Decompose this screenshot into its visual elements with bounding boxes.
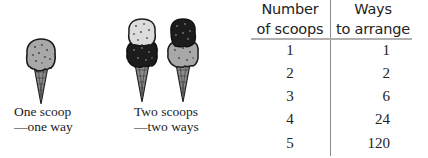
two-scoop-cone-dark-top-icon [166,18,200,104]
header-ways-line1: Ways [331,0,415,19]
two-scoops-caption: Two scoops —two ways [134,104,199,134]
header-number-of-scoops: Number of scoops [250,0,330,39]
one-scoop-caption-line2: —one way [14,119,73,134]
one-scoop-caption: One scoop —one way [14,104,73,134]
two-scoops-caption-line2: —two ways [134,119,199,134]
table-row-2-scoops: 2 [270,65,310,82]
header-ways-line2: to arrange [331,19,415,39]
table-row-3-scoops: 3 [270,88,310,105]
header-number-line1: Number [250,0,330,19]
table-row-3-ways: 6 [340,88,390,105]
header-number-line2: of scoops [250,19,330,39]
table-row-4-ways: 24 [340,111,390,128]
single-scoop-cone-icon [24,38,58,106]
table-row-1-scoops: 1 [270,42,310,59]
table-row-5-scoops: 5 [270,135,310,152]
table-row-5-ways: 120 [340,135,390,152]
header-ways-to-arrange: Ways to arrange [331,0,415,39]
one-scoop-caption-line1: One scoop [14,104,73,119]
table-row-1-ways: 1 [340,42,390,59]
table-row-2-ways: 2 [340,65,390,82]
table-row-4-scoops: 4 [270,111,310,128]
two-scoop-cone-light-top-icon [125,18,159,104]
two-scoops-caption-line1: Two scoops [134,104,199,119]
